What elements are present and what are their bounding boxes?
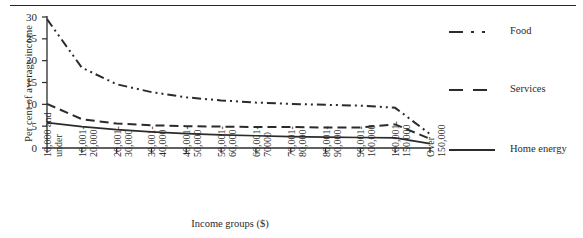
y-tick-label: 10 (15, 99, 37, 110)
x-tick-label: Over 150,000 (426, 125, 447, 158)
x-tick-label: 100,001- 150,000 (391, 121, 412, 157)
x-tick-label: 60,001- 70000 (252, 126, 273, 157)
y-tick-label: 20 (15, 55, 37, 66)
y-tick-label: 5 (15, 121, 37, 132)
x-tick-label: 10,001- 20,000 (78, 126, 99, 157)
legend-item-food: Food (449, 24, 583, 40)
dashed-line-swatch (449, 86, 497, 94)
x-axis-title: Income groups ($) (150, 218, 310, 229)
y-tick-label: 0 (15, 143, 37, 154)
x-tick-label: 20,001- 30,000 (113, 126, 134, 157)
x-tick-label: 90,001- 100,000 (356, 125, 377, 158)
x-tick-label: 80,001- 90,000 (322, 126, 343, 157)
y-tick-label: 15 (15, 77, 37, 88)
x-tick-label: 10,000 and under (43, 113, 64, 157)
legend-item-home-energy: Home energy (449, 142, 583, 158)
y-tick-label: 25 (15, 33, 37, 44)
solid-line-swatch (449, 146, 497, 154)
legend-item-services: Services (449, 82, 583, 98)
legend-label-services: Services (510, 82, 546, 96)
legend-label-food: Food (510, 24, 532, 38)
series-line-food (47, 19, 430, 134)
x-tick-label: 40,001- 50,000 (182, 126, 203, 157)
x-tick-label: 50,001- 60,000 (217, 126, 238, 157)
dash-dot-dot-line-swatch (449, 28, 497, 36)
x-tick-label: 30,001- 40,000 (147, 126, 168, 157)
y-tick-label: 30 (15, 12, 37, 23)
figure-container: Per cent of average income 051015202530 … (0, 0, 583, 238)
legend-label-home-energy: Home energy (510, 142, 567, 156)
x-tick-label: 70,001- 80,000 (287, 126, 308, 157)
